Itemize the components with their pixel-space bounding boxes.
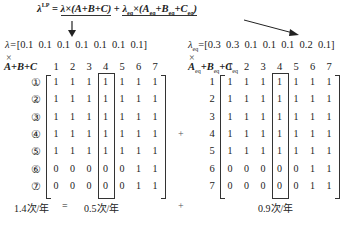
row-label: ③ (28, 111, 44, 123)
highlighted-column-box (272, 73, 289, 199)
left-lambda-vector: λ=[0.1 0.1 0.1 0.1 0.1 0.1 0.1] (5, 39, 147, 50)
lambda-label: λ= (5, 39, 17, 50)
matrix-cell: 1 (66, 93, 80, 104)
row-label: ⑥ (28, 163, 44, 175)
matrix-cell: 0 (82, 163, 96, 174)
matrix-cell: 0 (49, 163, 63, 174)
matrix-cell: 1 (115, 93, 129, 104)
column-header: 2 (240, 61, 254, 72)
down-arrow-icon (68, 21, 76, 37)
matrix-cell: 0 (66, 180, 80, 191)
matrix-cell: 1 (82, 111, 96, 122)
matrix-cell: 1 (322, 93, 336, 104)
matrix-cell: 0 (115, 180, 129, 191)
matrix-cell: 1 (132, 180, 146, 191)
matrix-cell: 1 (240, 145, 254, 156)
matrix-cell: 1 (322, 128, 336, 139)
matrix-cell: 0 (289, 163, 303, 174)
lambda-values: [0.1 0.1 0.1 0.1 0.1 0.1 0.1] (17, 39, 147, 50)
matrix-cell: 1 (49, 128, 63, 139)
matrix-cell: 1 (256, 111, 270, 122)
matrix-cell: 0 (223, 180, 237, 191)
matrix-cell: 1 (148, 111, 162, 122)
matrix-cell: 1 (240, 93, 254, 104)
row-label: 3 (204, 111, 220, 122)
matrix-cell: 1 (132, 93, 146, 104)
matrix-cell: 1 (49, 76, 63, 87)
matrix-cell: 1 (322, 145, 336, 156)
matrix-cell: 1 (49, 111, 63, 122)
matrix-cell: 1 (256, 76, 270, 87)
matrix-cell: 1 (256, 93, 270, 104)
matrix-cell: 1 (240, 111, 254, 122)
column-header: 5 (289, 61, 303, 72)
matrix-cell: 1 (82, 76, 96, 87)
matrix-cell: 1 (115, 145, 129, 156)
matrix-cell: 1 (322, 180, 336, 191)
left-result: 1.4次/年 (14, 200, 49, 215)
middle-result: 0.5次/年 (84, 200, 119, 215)
matrix-cell: 1 (256, 145, 270, 156)
left-bracket (220, 75, 225, 199)
matrix-cell: 1 (132, 111, 146, 122)
matrix-cell: 1 (66, 145, 80, 156)
matrix-cell: 1 (148, 128, 162, 139)
matrix-cell: 1 (49, 145, 63, 156)
column-header: 7 (322, 61, 336, 72)
right-result: 0.9次/年 (258, 200, 293, 215)
row-label: 2 (204, 93, 220, 104)
matrix-cell: 0 (66, 163, 80, 174)
matrix-cell: 1 (66, 76, 80, 87)
highlighted-column-box (98, 73, 115, 199)
left-bracket (46, 75, 51, 199)
matrix-cell: 0 (223, 163, 237, 174)
matrix-cell: 1 (148, 145, 162, 156)
matrix-cell: 1 (148, 76, 162, 87)
matrix-cell: 1 (223, 93, 237, 104)
matrix-cell: 1 (306, 180, 320, 191)
matrix-cell: 1 (223, 145, 237, 156)
matrix-cell: 1 (289, 128, 303, 139)
bottom-equals: = (62, 200, 68, 211)
matrix-cell: 1 (306, 145, 320, 156)
diagonal-arrow-icon (244, 20, 299, 36)
matrix-cell: 1 (132, 128, 146, 139)
matrix-cell: 0 (240, 180, 254, 191)
matrix-cell: 0 (256, 180, 270, 191)
matrix-cell: 0 (115, 163, 129, 174)
matrix-cell: 1 (82, 128, 96, 139)
matrix-cell: 1 (115, 128, 129, 139)
matrix-cell: 1 (289, 111, 303, 122)
matrix-cell: 0 (240, 163, 254, 174)
column-header: 5 (115, 61, 129, 72)
matrix-cell: 1 (322, 76, 336, 87)
matrix-cell: 1 (132, 145, 146, 156)
row-label: ⑦ (28, 180, 44, 192)
matrix-cell: 1 (240, 128, 254, 139)
matrix-cell: 1 (306, 76, 320, 87)
matrix-cell: 1 (223, 111, 237, 122)
right-bracket (161, 75, 166, 199)
column-header: 6 (132, 61, 146, 72)
right-bracket (335, 75, 340, 199)
lambda-eq-values: [0.3 0.3 0.1 0.1 0.1 0.2 0.1] (204, 39, 334, 50)
between-plus-sign: + (178, 128, 184, 139)
matrix-cell: 1 (322, 163, 336, 174)
matrix-cell: 0 (256, 163, 270, 174)
matrix-cell: 1 (322, 111, 336, 122)
row-label: ④ (28, 128, 44, 140)
column-header: 1 (49, 61, 63, 72)
column-header: 7 (148, 61, 162, 72)
column-header: 3 (82, 61, 96, 72)
bottom-plus: + (178, 200, 184, 211)
matrix-cell: 1 (132, 163, 146, 174)
matrix-cell: 1 (306, 93, 320, 104)
column-header: 4 (273, 61, 287, 72)
row-label: ① (28, 76, 44, 88)
matrix-cell: 1 (148, 93, 162, 104)
matrix-cell: 1 (66, 128, 80, 139)
matrix-cell: 1 (115, 76, 129, 87)
matrix-cell: 1 (306, 111, 320, 122)
right-lambda-vector: λeq=[0.3 0.3 0.1 0.1 0.1 0.2 0.1] (188, 39, 335, 52)
row-label: 4 (204, 128, 220, 139)
